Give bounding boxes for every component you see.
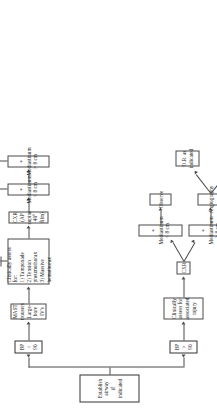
connector-airway-to-bplow <box>28 357 29 367</box>
node-observe-right-top: Observe <box>149 193 171 205</box>
node-bp-low-label: BP < 90 <box>18 342 38 351</box>
arrowhead-cxr-right <box>181 276 185 279</box>
node-mediastinum-gt8-left-label: * Mediastinum > 8 cm <box>18 147 38 175</box>
node-mediastinum-gt8-right: * Mediastinum > 8 cm <box>188 224 217 236</box>
node-establish-airway: Establish airway if indicated <box>79 374 139 402</box>
node-or-indicated-right: O.R. as indicated <box>175 150 199 166</box>
node-cxr-right-label: CXR <box>180 262 187 273</box>
node-mast-trousers: MAST trousers Large-bore IV's <box>10 303 46 319</box>
arrowhead-bphigh <box>181 354 185 357</box>
connector-lt8-admit <box>0 188 7 189</box>
connector-angioright-to-observe <box>210 174 217 194</box>
connector-airway-spine <box>28 366 183 367</box>
connector-cxrright-to-gt8 <box>183 242 195 262</box>
connector-bphigh-assoc <box>183 324 184 340</box>
arrowhead-or-right <box>193 169 198 174</box>
arrowhead-clinical-assess <box>26 286 30 289</box>
diagram-viewport: Establish airway if indicated BP < 90 BP… <box>0 0 217 416</box>
connector-cxrright-to-lt8 <box>172 242 184 262</box>
node-clinical-assess-associated: Clinically assess for associated injury <box>163 297 203 319</box>
arrowhead-bplow <box>26 354 30 357</box>
node-cxr-right: CXR <box>176 261 190 274</box>
arrowhead-cxr-film <box>26 225 30 228</box>
connector-assess-cxrfilm <box>28 228 29 238</box>
node-bp-low: BP < 90 <box>14 340 42 353</box>
arrowhead-med-gt8-right <box>191 238 196 243</box>
node-observe-right-top-label: Observe <box>157 190 164 208</box>
node-mast-trousers-label: MAST trousers Large-bore IV's <box>11 303 44 320</box>
connector-airway-out <box>109 367 110 374</box>
arrowhead-mast <box>26 321 30 324</box>
connector-assoc-cxr <box>183 279 184 297</box>
node-establish-airway-label: Establish airway if indicated <box>96 376 123 400</box>
connector-bplow-mast <box>28 324 29 340</box>
node-clinical-assess-primary: Clinically assess for: 1) Tamponade 2) T… <box>7 238 49 284</box>
node-mediastinum-gt8-left: * Mediastinum > 8 cm <box>7 155 49 167</box>
connector-gt8-angio <box>0 160 7 161</box>
node-cxr-film-label: CXR (AP supine 40° film) <box>11 210 44 224</box>
node-cxr-film: CXR (AP supine 40° film) <box>8 211 48 223</box>
node-clinical-assess-associated-label: Clinically assess for associated injury <box>170 297 197 319</box>
flowchart-canvas: Establish airway if indicated BP < 90 BP… <box>0 0 217 416</box>
node-mediastinum-gt8-right-label: * Mediastinum > 8 cm <box>200 216 217 244</box>
connector-assess-tube-bar <box>0 256 1 266</box>
node-or-indicated-right-label: O.R. as indicated <box>180 148 193 167</box>
node-mediastinum-lt8-right: * Mediastinum < 8 cm <box>138 224 182 236</box>
node-angiography-right: Angiography <box>197 193 217 205</box>
node-mediastinum-lt8-left: * Mediastinum < 8 cm <box>7 183 49 195</box>
node-clinical-assess-primary-label: Clinically assess for: 1) Tamponade 2) T… <box>5 240 52 282</box>
arrowhead-assoc <box>181 321 185 324</box>
connector-angioright-to-or <box>195 174 211 194</box>
node-bp-high: BP > 90 <box>169 340 197 353</box>
connector-lt8right-observe <box>160 210 161 224</box>
connector-mast-assess <box>28 289 29 303</box>
connector-airway-to-bphigh <box>183 357 184 367</box>
node-bp-high-label: BP > 90 <box>173 342 193 351</box>
